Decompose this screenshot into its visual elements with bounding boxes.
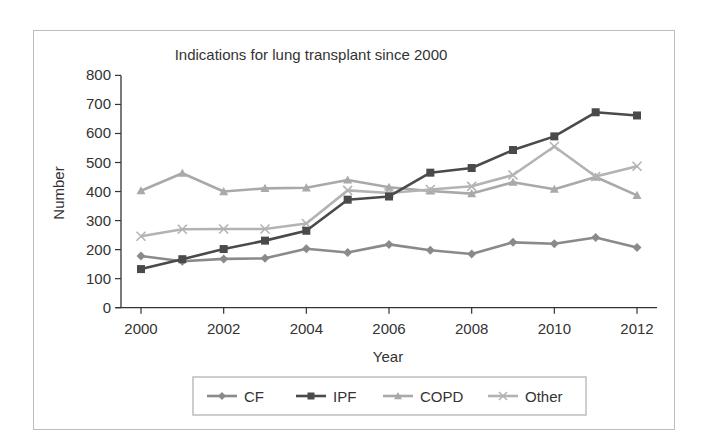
square-marker — [426, 169, 434, 177]
y-axis-title: Number — [50, 166, 67, 219]
diamond-marker — [591, 233, 600, 242]
y-tick-label: 0 — [103, 299, 111, 316]
y-tick-label: 300 — [86, 212, 111, 229]
square-marker — [308, 393, 315, 400]
diamond-marker — [261, 254, 270, 263]
y-tick-label: 800 — [86, 66, 111, 83]
legend-label: CF — [244, 388, 264, 405]
y-tick-label: 400 — [86, 183, 111, 200]
y-tick-label: 500 — [86, 154, 111, 171]
square-marker — [468, 164, 476, 172]
axes: 0100200300400500600700800200020022004200… — [86, 66, 657, 336]
chart-title: Indications for lung transplant since 20… — [175, 46, 448, 63]
diamond-marker — [137, 252, 146, 261]
square-marker — [344, 196, 352, 204]
x-tick-label: 2002 — [207, 320, 240, 337]
x-tick-label: 2010 — [538, 320, 571, 337]
x-axis-title: Year — [373, 348, 403, 365]
x-tick-label: 2012 — [620, 320, 653, 337]
x-tick-label: 2000 — [124, 320, 157, 337]
diamond-marker — [302, 244, 311, 253]
square-marker — [261, 237, 269, 245]
square-marker — [178, 255, 186, 263]
diamond-marker — [343, 248, 352, 257]
legend: CFIPFCOPDOther — [193, 377, 586, 415]
series-layer — [137, 108, 642, 273]
x-tick-label: 2006 — [372, 320, 405, 337]
series-cf — [137, 233, 642, 266]
y-tick-label: 600 — [86, 124, 111, 141]
triangle-marker — [178, 169, 187, 177]
y-tick-label: 700 — [86, 95, 111, 112]
x-tick-label: 2004 — [290, 320, 323, 337]
square-marker — [302, 227, 310, 235]
diamond-marker — [550, 239, 559, 248]
diamond-marker — [509, 238, 518, 247]
diamond-marker — [385, 240, 394, 249]
x-tick-label: 2008 — [455, 320, 488, 337]
square-marker — [633, 111, 641, 119]
legend-label: COPD — [420, 388, 464, 405]
y-tick-label: 100 — [86, 270, 111, 287]
diamond-marker — [633, 243, 642, 252]
square-marker — [385, 192, 393, 200]
diamond-marker — [467, 249, 476, 258]
square-marker — [220, 245, 228, 253]
diamond-marker — [219, 254, 228, 263]
square-marker — [137, 265, 145, 273]
series-other — [137, 142, 642, 241]
square-marker — [509, 146, 517, 154]
y-tick-label: 200 — [86, 241, 111, 258]
square-marker — [592, 108, 600, 116]
legend-label: IPF — [333, 388, 356, 405]
legend-label: Other — [525, 388, 563, 405]
diamond-marker — [426, 246, 435, 255]
line-chart: Indications for lung transplant since 20… — [0, 0, 705, 444]
square-marker — [550, 132, 558, 140]
series-line — [141, 147, 637, 237]
